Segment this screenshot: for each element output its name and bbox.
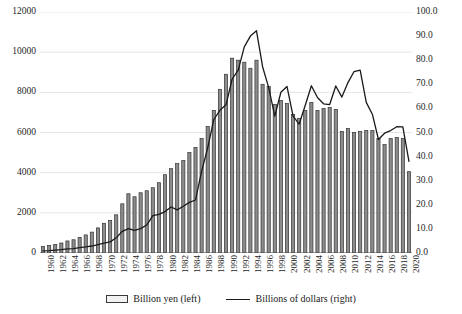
bar — [401, 139, 404, 253]
x-axis-tick-label: 1986 — [205, 255, 214, 273]
bar — [255, 60, 258, 253]
bar — [243, 62, 246, 253]
bar — [395, 138, 398, 253]
bar — [365, 130, 368, 253]
x-axis-tick-label: 2014 — [376, 255, 385, 273]
chart-legend: Billion yen (left) Billions of dollars (… — [0, 294, 462, 304]
bar — [328, 107, 331, 253]
y-axis-right-tick-label: 90.0 — [416, 31, 433, 41]
bar — [157, 183, 160, 253]
legend-label-billions-of-dollars: Billions of dollars (right) — [255, 294, 355, 304]
x-axis-tick-label: 2016 — [388, 255, 397, 273]
x-axis-tick-label: 2018 — [400, 255, 409, 273]
y-axis-right-tick-label: 20.0 — [416, 200, 433, 210]
bar — [54, 244, 57, 253]
y-axis-right-tick-label: 60.0 — [416, 104, 433, 114]
y-axis-right-tick-label: 80.0 — [416, 55, 433, 65]
y-axis-right-tick-label: 10.0 — [416, 224, 433, 234]
bar — [96, 228, 99, 253]
y-axis-left-tick-label: 6000 — [17, 128, 36, 138]
x-axis-tick-label: 1966 — [83, 255, 92, 273]
x-axis-tick-label: 2004 — [315, 255, 324, 273]
x-axis-tick-label: 2008 — [339, 255, 348, 273]
y-axis-left-tick-label: 0 — [31, 248, 36, 258]
legend-line-swatch-icon — [226, 299, 250, 300]
y-axis-right-tick-label: 30.0 — [416, 176, 433, 186]
bar — [316, 110, 319, 253]
bar — [109, 220, 112, 253]
bar — [121, 204, 124, 253]
y-axis-left-tick-label: 2000 — [17, 208, 36, 218]
bar — [298, 118, 301, 253]
bar — [322, 108, 325, 253]
y-axis-right-tick-label: 40.0 — [416, 152, 433, 162]
x-axis-tick-label: 1980 — [169, 255, 178, 273]
x-axis-tick-label: 1998 — [278, 255, 287, 273]
x-axis-tick-label: 1964 — [71, 255, 80, 273]
x-axis-tick-label: 1990 — [230, 255, 239, 273]
x-axis-tick-label: 2002 — [303, 255, 312, 273]
bar — [127, 194, 130, 253]
bar — [163, 175, 166, 253]
x-axis-tick-label: 1988 — [217, 255, 226, 273]
bar — [145, 191, 148, 253]
x-axis-tick-label: 2020 — [412, 255, 421, 273]
x-axis: 1960196219641966196819701972197419761978… — [40, 255, 412, 291]
legend-bar-swatch-icon — [106, 295, 128, 303]
plot-area — [40, 12, 412, 253]
bar — [310, 102, 313, 253]
y-axis-left-tick-label: 4000 — [17, 168, 36, 178]
bar — [383, 145, 386, 253]
bar — [279, 100, 282, 253]
legend-item-billions-of-dollars: Billions of dollars (right) — [226, 294, 355, 304]
y-axis-left: 020004000600080001000012000 — [0, 0, 36, 314]
bar — [304, 110, 307, 253]
chart-plot-svg — [40, 12, 412, 253]
x-axis-tick-label: 2012 — [364, 255, 373, 273]
bar — [72, 240, 75, 253]
bar — [267, 86, 270, 253]
x-axis-tick-label: 1968 — [95, 255, 104, 273]
bar — [292, 114, 295, 253]
bar — [261, 84, 264, 253]
bar — [151, 188, 154, 253]
x-axis-tick-label: 1994 — [254, 255, 263, 273]
bar — [334, 109, 337, 253]
y-axis-left-tick-label: 12000 — [12, 7, 36, 17]
bar — [377, 139, 380, 253]
bar — [359, 132, 362, 254]
x-axis-tick-label: 1978 — [156, 255, 165, 273]
bar — [90, 232, 93, 253]
x-axis-tick-label: 1984 — [193, 255, 202, 273]
bar — [237, 60, 240, 253]
bar — [285, 103, 288, 253]
bar — [139, 193, 142, 253]
y-axis-left-tick-label: 8000 — [17, 88, 36, 98]
y-axis-left-tick-label: 10000 — [12, 47, 36, 57]
x-axis-tick-label: 1976 — [144, 255, 153, 273]
bar — [84, 235, 87, 253]
x-axis-tick-label: 1972 — [120, 255, 129, 273]
legend-item-billion-yen: Billion yen (left) — [106, 294, 200, 304]
bar — [133, 197, 136, 253]
bar — [170, 169, 173, 253]
bar — [176, 164, 179, 253]
x-axis-tick-label: 2000 — [290, 255, 299, 273]
bar — [340, 132, 343, 254]
x-axis-tick-label: 2006 — [327, 255, 336, 273]
y-axis-right-tick-label: 50.0 — [416, 128, 433, 138]
bar — [48, 245, 51, 253]
x-axis-tick-label: 1962 — [59, 255, 68, 273]
chart-container: 020004000600080001000012000 0.010.020.03… — [0, 0, 462, 314]
y-axis-right-tick-label: 100.0 — [416, 7, 437, 17]
bar — [231, 58, 234, 253]
bar — [41, 246, 44, 253]
x-axis-tick-label: 1982 — [181, 255, 190, 273]
x-axis-tick-label: 1960 — [47, 255, 56, 273]
x-axis-tick-label: 1974 — [132, 255, 141, 273]
legend-label-billion-yen: Billion yen (left) — [133, 294, 200, 304]
bar — [115, 215, 118, 253]
bar — [371, 130, 374, 253]
x-axis-tick-label: 1992 — [242, 255, 251, 273]
bar-series-billion-yen — [41, 58, 410, 253]
